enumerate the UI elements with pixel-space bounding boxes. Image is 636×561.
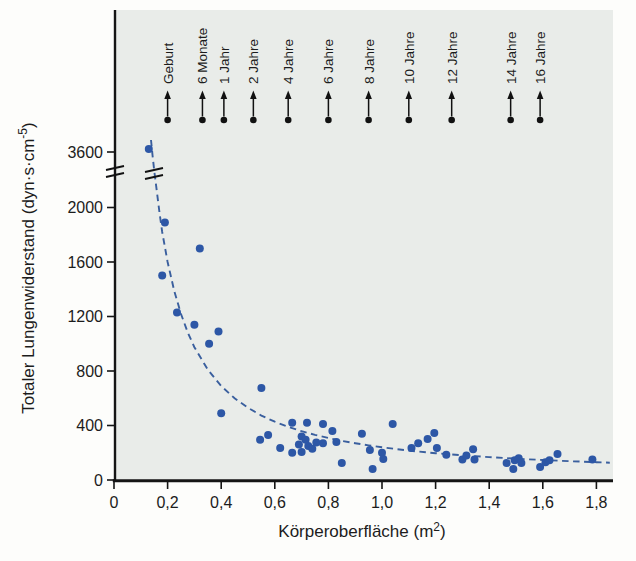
x-tick-label: 1,8 (585, 494, 607, 511)
data-point (471, 456, 479, 464)
data-point (414, 439, 422, 447)
age-marker-dot (164, 117, 171, 124)
data-point (217, 409, 225, 417)
y-tick-label: 800 (76, 363, 103, 380)
age-marker-label: 2 Jahre (246, 39, 261, 84)
y-axis-title: Totaler Lungenwiderstand (dyn·s·cm-5) (16, 122, 38, 413)
age-marker-label: 12 Jahre (445, 31, 460, 84)
data-point (256, 436, 264, 444)
data-point (358, 430, 366, 438)
y-tick-label: 1600 (67, 254, 103, 271)
age-marker-dot (406, 117, 413, 124)
age-marker-label: 6 Jahre (321, 39, 336, 84)
age-marker-dot (325, 117, 332, 124)
data-point (546, 456, 554, 464)
age-marker-label: 10 Jahre (402, 31, 417, 84)
data-point (328, 427, 336, 435)
data-point (173, 308, 181, 316)
age-marker-label: 8 Jahre (362, 39, 377, 84)
data-point (588, 456, 596, 464)
age-marker-dot (537, 117, 544, 124)
data-point (196, 244, 204, 252)
age-marker-dot (448, 117, 455, 124)
x-tick-label: 0,8 (317, 494, 339, 511)
data-point (264, 431, 272, 439)
chart-figure: 00,20,40,60,81,01,21,41,61,8040080012001… (0, 0, 636, 561)
data-point (517, 459, 525, 467)
data-point (319, 439, 327, 447)
x-tick-label: 0,4 (210, 494, 232, 511)
data-point (430, 429, 438, 437)
age-marker-label: 6 Monate (195, 28, 210, 84)
scatter-chart: 00,20,40,60,81,01,21,41,61,8040080012001… (0, 0, 636, 561)
age-marker-label: 1 Jahr (217, 46, 232, 84)
data-point (288, 419, 296, 427)
age-marker-dot (221, 117, 228, 124)
age-marker-dot (250, 117, 257, 124)
data-point (369, 465, 377, 473)
data-point (303, 419, 311, 427)
x-tick-label: 1,6 (532, 494, 554, 511)
data-point (295, 441, 303, 449)
age-marker-dot (507, 117, 514, 124)
data-point (379, 455, 387, 463)
data-point (298, 448, 306, 456)
data-point (205, 340, 213, 348)
data-point (276, 444, 284, 452)
data-point (190, 321, 198, 329)
x-tick-label: 0 (110, 494, 119, 511)
data-point (509, 465, 517, 473)
age-marker-dot (285, 117, 292, 124)
data-point (158, 272, 166, 280)
x-tick-label: 1,0 (371, 494, 393, 511)
data-point (319, 420, 327, 428)
age-marker-label: 14 Jahre (504, 31, 519, 84)
data-point (257, 384, 265, 392)
data-point (288, 449, 296, 457)
data-point (503, 459, 511, 467)
data-point (338, 459, 346, 467)
x-axis-title: Körperoberfläche (m2) (278, 520, 445, 541)
data-point (554, 450, 562, 458)
x-tick-label: 0,6 (264, 494, 286, 511)
x-tick-label: 1,2 (424, 494, 446, 511)
data-point (366, 446, 374, 454)
x-tick-label: 1,4 (478, 494, 500, 511)
data-point (389, 420, 397, 428)
data-point (469, 445, 477, 453)
data-point (215, 328, 223, 336)
data-point (442, 451, 450, 459)
data-point (424, 435, 432, 443)
data-point (433, 444, 441, 452)
age-marker-label: 4 Jahre (281, 39, 296, 84)
age-marker-dot (199, 117, 206, 124)
x-tick-label: 0,2 (156, 494, 178, 511)
data-point (462, 452, 470, 460)
y-tick-label: 2000 (67, 199, 103, 216)
y-tick-label: 0 (94, 472, 103, 489)
y-tick-label: 1200 (67, 308, 103, 325)
data-point (408, 444, 416, 452)
data-point (332, 438, 340, 446)
age-marker-label: 16 Jahre (533, 31, 548, 84)
y-break-tick-label: 3600 (67, 144, 103, 161)
age-marker-dot (365, 117, 372, 124)
data-point (161, 219, 169, 227)
data-point (145, 145, 153, 153)
y-tick-label: 400 (76, 417, 103, 434)
age-marker-label: Geburt (161, 42, 176, 84)
